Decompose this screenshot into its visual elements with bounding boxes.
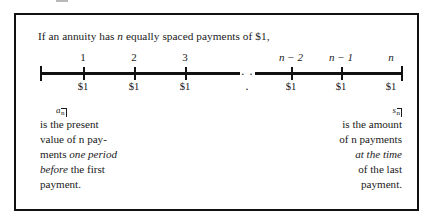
annuity-due-symbol-line: an: [40, 103, 170, 117]
accumulated-value-caption-lines: is the amountof n paymentsat the timeof …: [266, 117, 402, 192]
caption-line: before the first: [40, 162, 170, 177]
present-value-caption: an is the presentvalue of n pay-ments on…: [40, 103, 170, 192]
payment-timeline: . . . 1$12$13$1n − 2$1n − 1$1n$1: [16, 51, 421, 101]
payment-amount-label: $1: [180, 80, 191, 93]
payment-amount-label: $1: [386, 80, 397, 93]
timeline-axis-right: [255, 72, 402, 75]
timeline-tick: [341, 67, 343, 80]
annuity-accum-symbol-line: sn: [266, 103, 402, 117]
annuity-symbol-s-subscript: n: [397, 108, 403, 117]
scan-artifact: [56, 0, 68, 2]
intro-text-before: If an annuity has: [38, 30, 117, 42]
timeline-tick: [83, 67, 85, 80]
timeline-tick-end: [401, 66, 403, 81]
period-label: 2: [131, 51, 137, 64]
timeline-tick: [134, 67, 136, 80]
present-value-caption-lines: is the presentvalue of n pay-ments one p…: [40, 117, 170, 192]
timeline-ellipsis: . . .: [240, 64, 255, 94]
payment-amount-label: $1: [286, 80, 297, 93]
payment-amount-label: $1: [336, 80, 347, 93]
accumulated-value-caption: sn is the amountof n paymentsat the time…: [266, 103, 402, 192]
caption-line: is the amount: [266, 117, 402, 132]
intro-sentence: If an annuity has n equally spaced payme…: [38, 29, 270, 43]
payment-amount-label: $1: [129, 80, 140, 93]
caption-line: value of n pay-: [40, 132, 170, 147]
timeline-tick: [185, 67, 187, 80]
timeline-tick: [291, 67, 293, 80]
caption-line: payment.: [40, 177, 170, 192]
annuity-symbol-s: sn: [392, 103, 402, 117]
caption-line: of the last: [266, 162, 402, 177]
caption-line: of n payments: [266, 132, 402, 147]
caption-line: payment.: [266, 177, 402, 192]
timeline-tick-start: [40, 66, 42, 81]
annuity-symbol-a-base: a: [56, 105, 61, 115]
caption-line: is the present: [40, 117, 170, 132]
figure-box: If an annuity has n equally spaced payme…: [14, 13, 419, 211]
timeline-axis-left: [40, 72, 240, 75]
period-label: n − 1: [329, 51, 353, 64]
intro-text-after: equally spaced payments of $1,: [123, 30, 269, 42]
caption-line: at the time: [266, 147, 402, 162]
annuity-symbol-a: an: [56, 103, 67, 117]
payment-amount-label: $1: [78, 80, 89, 93]
period-label: 1: [80, 51, 86, 64]
caption-line: ments one period: [40, 147, 170, 162]
period-label: n: [388, 51, 394, 64]
annuity-symbol-a-subscript: n: [61, 108, 67, 117]
annuity-symbol-s-base: s: [392, 105, 396, 115]
period-label: n − 2: [279, 51, 303, 64]
period-label: 3: [182, 51, 188, 64]
